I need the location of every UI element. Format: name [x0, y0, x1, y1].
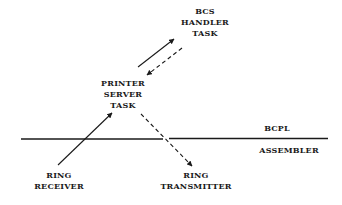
arrow-printer-to-bcs [138, 39, 174, 67]
node-label-line: PRINTER [101, 78, 145, 89]
layer-label-assembler: ASSEMBLER [259, 145, 318, 155]
node-label-line: RING [34, 170, 84, 181]
node-label-line: BCS [181, 6, 229, 17]
node-label-line: TASK [181, 28, 229, 39]
arrow-bcs-to-printer [147, 48, 182, 75]
node-label-line: RECEIVER [34, 181, 84, 192]
arrow-printer-to-transmitter [141, 114, 192, 166]
node-bcs-handler-task: BCS HANDLER TASK [181, 6, 229, 39]
node-label-line: HANDLER [181, 17, 229, 28]
node-label-line: RING [160, 170, 231, 181]
layer-label-bcpl: BCPL [264, 123, 290, 133]
layer-divider-line [21, 139, 328, 140]
node-ring-receiver: RING RECEIVER [34, 170, 84, 192]
node-ring-transmitter: RING TRANSMITTER [160, 170, 231, 192]
node-printer-server-task: PRINTER SERVER TASK [101, 78, 145, 111]
node-label-line: SERVER [101, 89, 145, 100]
node-label-line: TASK [101, 100, 145, 111]
node-label-line: TRANSMITTER [160, 181, 231, 192]
